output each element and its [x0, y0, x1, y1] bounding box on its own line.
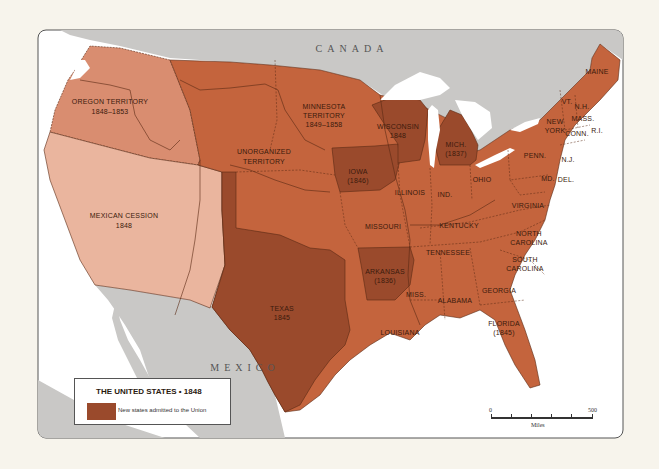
scale-tick	[491, 414, 492, 418]
label-missouri: MISSOURI	[365, 223, 401, 230]
label-oregon-years: 1848–1853	[92, 108, 129, 115]
label-iowa-year: (1846)	[347, 177, 368, 185]
scale-tick	[511, 414, 512, 418]
label-virginia: VIRGINIA	[512, 202, 544, 209]
label-florida-year: (1845)	[493, 329, 514, 337]
label-massachusetts: MASS.	[572, 115, 595, 122]
label-minnesota-years: 1849–1858	[306, 121, 343, 128]
scale-max-label: 500	[588, 407, 597, 413]
label-maine: MAINE	[585, 68, 608, 75]
label-south-carolina-2: CAROLINA	[506, 265, 544, 272]
label-vermont: VT.	[562, 98, 573, 105]
label-florida: FLORIDA	[488, 320, 520, 327]
label-illinois: ILLINOIS	[395, 189, 426, 196]
label-canada: CANADA	[316, 43, 389, 54]
scale-unit-label: Miles	[531, 422, 545, 428]
label-ohio: OHIO	[473, 176, 492, 183]
label-north-carolina-2: CAROLINA	[510, 239, 548, 246]
label-mexico: MEXICO	[210, 362, 279, 373]
label-south-carolina: SOUTH	[512, 256, 538, 263]
scale-tick	[592, 414, 593, 418]
label-alabama: ALABAMA	[438, 297, 473, 304]
label-georgia: GEORGIA	[482, 287, 516, 294]
label-michigan-year: (1837)	[445, 150, 466, 158]
scale-tick	[571, 414, 572, 418]
label-rhode-island: R.I.	[591, 127, 603, 134]
label-new-york: NEW	[547, 118, 564, 125]
map-stage: CANADA MEXICO OREGON TERRITORY 1848–1853…	[0, 0, 659, 469]
label-new-hampshire: N.H.	[575, 103, 590, 110]
scale-bar: 0 500 Miles	[489, 407, 599, 435]
label-arkansas: ARKANSAS	[365, 268, 405, 275]
label-indiana: IND.	[438, 191, 453, 198]
label-wisconsin: WISCONSIN	[377, 123, 419, 130]
label-arkansas-year: (1836)	[374, 277, 395, 285]
label-mexican-cession-year: 1848	[116, 222, 132, 229]
label-tennessee: TENNESSEE	[426, 249, 470, 256]
legend-label-new-states: New states admitted to the Union	[118, 407, 206, 413]
label-mexican-cession: MEXICAN CESSION	[90, 212, 158, 219]
label-new-york-2: YORK	[545, 127, 566, 134]
legend-swatch-new-states	[87, 403, 116, 420]
label-iowa: IOWA	[348, 168, 367, 175]
label-minnesota-2: TERRITORY	[303, 112, 345, 119]
label-mississippi: MISS.	[406, 291, 426, 298]
label-new-jersey: N.J.	[561, 156, 574, 163]
label-unorganized: UNORGANIZED	[237, 148, 291, 155]
label-minnesota: MINNESOTA	[303, 103, 346, 110]
label-wisconsin-year: 1848	[390, 132, 406, 139]
scale-line	[491, 417, 593, 419]
scale-tick	[551, 414, 552, 418]
label-louisiana: LOUISIANA	[380, 329, 419, 336]
legend-title: THE UNITED STATES • 1848	[96, 387, 202, 396]
map-legend: THE UNITED STATES • 1848 New states admi…	[74, 378, 231, 425]
scale-tick	[531, 414, 532, 418]
label-unorganized-2: TERRITORY	[243, 158, 285, 165]
label-delaware: DEL.	[558, 176, 574, 183]
label-connecticut: CONN.	[565, 130, 589, 137]
scale-min-label: 0	[489, 407, 492, 413]
label-maryland: MD.	[541, 175, 554, 182]
label-oregon: OREGON TERRITORY	[72, 98, 148, 105]
label-michigan: MICH.	[446, 141, 467, 148]
label-kentucky: KENTUCKY	[439, 222, 479, 229]
label-pennsylvania: PENN.	[524, 152, 546, 159]
label-texas: TEXAS	[270, 305, 294, 312]
label-texas-year: 1845	[274, 314, 290, 321]
label-north-carolina: NORTH	[516, 230, 542, 237]
